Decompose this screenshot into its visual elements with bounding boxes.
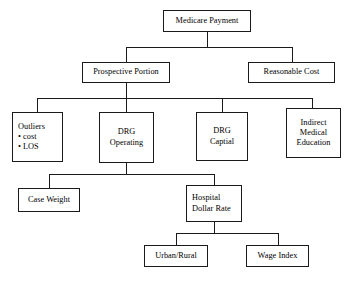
edge-bus-to-wage-index <box>278 233 279 245</box>
node-drg-captial[interactable]: DRG Captial <box>196 112 248 161</box>
node-label-medicare-payment: Medicare Payment <box>176 16 239 26</box>
node-label-drg-operating-line1: DRG <box>118 127 136 137</box>
outliers-bullet-cost: • cost <box>18 132 36 142</box>
node-label-drg-captial-line2: Captial <box>210 137 234 147</box>
edge-bus-level1 <box>126 47 293 48</box>
node-label-prospective-portion: Prospective Portion <box>93 67 159 77</box>
node-reasonable-cost[interactable]: Reasonable Cost <box>248 62 335 83</box>
node-wage-index[interactable]: Wage Index <box>246 245 309 267</box>
edge-bus-to-reasonable <box>292 47 293 63</box>
edge-medicare-to-bus <box>207 32 208 48</box>
node-indirect-medical-education[interactable]: Indirect Medical Education <box>286 108 341 158</box>
node-label-urban-rural: Urban/Rural <box>155 251 197 261</box>
node-case-weight[interactable]: Case Weight <box>18 188 80 212</box>
edge-bus-to-outliers <box>37 98 38 112</box>
edge-prospective-to-bus <box>126 83 127 99</box>
node-hospital-dollar-rate[interactable]: Hospital Dollar Rate <box>186 185 242 222</box>
node-label-drg-operating-line2: Operating <box>110 138 143 148</box>
edge-bus-level2 <box>37 98 313 99</box>
edge-bus-level3 <box>49 174 215 175</box>
edge-bus-level4 <box>176 233 279 234</box>
node-label-case-weight: Case Weight <box>28 195 70 205</box>
node-urban-rural[interactable]: Urban/Rural <box>144 245 208 267</box>
outliers-bullet-los: • LOS <box>18 142 39 152</box>
edge-bus-to-hospital-rate <box>214 174 215 185</box>
node-medicare-payment[interactable]: Medicare Payment <box>163 10 251 32</box>
node-drg-operating[interactable]: DRG Operating <box>99 112 154 163</box>
node-label-indirect-line1: Indirect <box>301 118 327 128</box>
edge-bus-to-drg-captial <box>222 98 223 112</box>
edge-bus-to-urban-rural <box>176 233 177 245</box>
node-label-hospital-line1: Hospital <box>192 193 220 203</box>
node-prospective-portion[interactable]: Prospective Portion <box>82 62 170 83</box>
node-label-indirect-line2: Medical <box>300 128 327 138</box>
edge-bus-to-case-weight <box>49 174 50 188</box>
org-chart-diagram: Medicare Payment Prospective Portion Rea… <box>0 0 351 281</box>
node-label-outliers: Outliers <box>18 122 45 132</box>
node-label-indirect-line3: Education <box>297 138 331 148</box>
node-label-hospital-line2: Dollar Rate <box>192 204 231 214</box>
node-outliers[interactable]: Outliers • cost • LOS <box>12 112 63 162</box>
edge-bus-to-prospective <box>126 47 127 63</box>
node-label-wage-index: Wage Index <box>258 251 298 261</box>
edge-bus-to-indirect <box>312 98 313 108</box>
edge-bus-to-drg-operating <box>126 98 127 112</box>
node-label-drg-captial-line1: DRG <box>213 126 231 136</box>
node-label-reasonable-cost: Reasonable Cost <box>264 67 320 77</box>
